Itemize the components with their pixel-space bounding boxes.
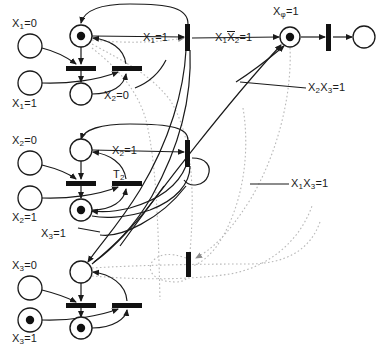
arc-p-x1-0-to-t-x1-left [42,48,76,64]
transition-x1-left [66,66,96,71]
token-xphi [286,33,294,41]
dotted-arc-bottom-loop [150,255,190,282]
label-arc-x1-eq-1: X1=1 [143,31,168,43]
transition-guard-x1-notx2 [185,24,190,51]
label-place-xphi: Xφ=1 [273,5,299,17]
label-place-x1-0: X1=0 [12,17,37,29]
place-x3-0 [18,276,42,300]
arc-p-x2-top-to-guard-x2x3 [92,150,184,152]
leader-x2x3-guard [240,82,306,88]
label-arc-x2-eq-1: X2=1 [112,144,137,156]
arc-p-x1-1-to-t-x1-right [42,72,118,83]
transition-guard-x1-x3 [186,252,191,277]
label-place-x1-1: X1=1 [12,97,37,109]
label-transition-t2: T2 [113,168,125,180]
dotted-arc-x3-right2 [92,206,312,279]
label-place-x3-1: X3=1 [12,332,37,344]
arc-guard-x2x3-loop-back [81,124,188,140]
arc-guard-to-x2bot-a [92,166,186,212]
petri-net-canvas [0,0,381,352]
arc-p-x3-0-to-t-x3-left [42,290,76,302]
dotted-arc-x3-right [92,222,320,268]
arc-p-x2-1-to-t-x2-right [42,187,118,198]
petri-net-figure: X1=0 X1=1 X2=0 X2=1 X3=0 X3=1 X1=1 X2=0 … [0,0,381,352]
transition-x3-right [112,303,142,308]
place-x1-bot [70,83,92,105]
arc-p-x2-0-to-t-x2-left [42,165,76,179]
label-arc-x2-eq-0: X2=0 [104,89,129,101]
transition-x1-right [112,66,142,71]
arc-to-xphi-guard-leader [236,46,284,82]
arc-p-x2-bot-to-t-right [92,189,126,210]
dotted-arc-guard-down-2 [193,108,246,266]
label-guard-x2-x3: X2X3=1 [308,81,345,93]
label-arc-x3-eq-1: X3=1 [41,227,66,239]
place-x2-0 [18,151,42,175]
leader-x3-eq-1-b [94,186,164,262]
label-place-x2-0: X2=0 [12,134,37,146]
dotted-arc-x1-to-guard-c [92,48,160,300]
place-x2-top [70,139,92,161]
token-x2-bot [77,206,85,214]
transition-x2-left [66,181,96,186]
label-guard-x1-x3: X1X3=1 [291,177,328,189]
place-x1-0 [18,34,42,58]
place-output [353,26,375,48]
place-x1-1 [18,71,42,95]
token-x3-1 [26,316,34,324]
transition-final [326,24,331,51]
arc-p-x3-bot-to-t-right [92,310,127,328]
label-guard-x1-notx2: X1X2=1 [215,31,252,43]
dotted-inhibitor-arcs [92,38,320,300]
token-x3-bot [77,324,85,332]
label-place-x2-1: X2=1 [12,211,37,223]
token-x1-top [77,32,85,40]
dotted-arc-guard-down-1 [196,48,290,258]
arc-t-x3-right-to-p-top [93,272,127,301]
place-x2-1 [18,186,42,210]
label-place-x3-0: X3=0 [12,259,37,271]
transition-x2-right [112,181,142,186]
dotted-arc-x1-to-guard-a [92,38,184,42]
transition-x3-left [66,303,96,308]
transition-guard-x2-x3 [185,140,190,167]
transitions-layer [66,24,331,308]
place-x3-top [70,261,92,283]
leader-x3-eq-1-text [78,228,100,232]
leader-x2-eq-0 [135,60,166,88]
arc-p-x1-top-to-guard [92,36,184,37]
arc-guard-to-x2bot-b [92,166,190,217]
arc-guard-x1notx2-down-long-b [92,50,190,264]
arc-guard-loop-back-x1 [81,4,188,24]
